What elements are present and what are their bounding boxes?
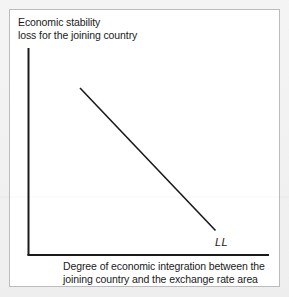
ll-curve bbox=[80, 88, 216, 231]
plot-area bbox=[10, 10, 281, 288]
curve-label-ll: LL bbox=[215, 236, 228, 248]
figure-card: Economic stability loss for the joining … bbox=[9, 9, 280, 287]
x-axis-title: Degree of economic integration between t… bbox=[63, 260, 265, 286]
figure-inner: Economic stability loss for the joining … bbox=[10, 10, 279, 286]
figure-page: Economic stability loss for the joining … bbox=[0, 0, 289, 297]
